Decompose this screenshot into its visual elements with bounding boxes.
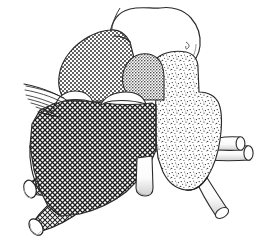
- figure-root: Anatomical line drawing of brainstem wit…: [0, 0, 261, 243]
- anatomical-illustration: [0, 0, 261, 243]
- center-descending-tube: [136, 156, 153, 196]
